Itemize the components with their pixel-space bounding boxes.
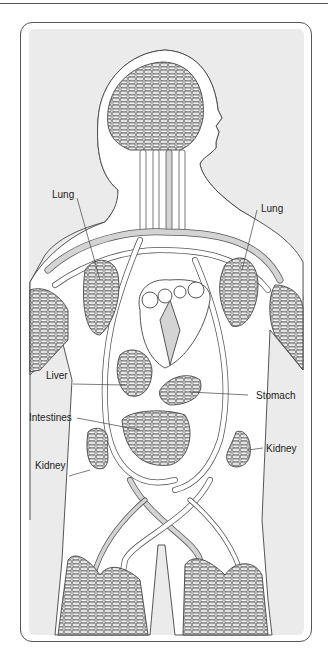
kidney-left <box>87 428 108 468</box>
label-lung-left: Lung <box>52 189 74 200</box>
label-liver: Liver <box>46 370 68 381</box>
label-kidney-right: Kidney <box>266 443 297 454</box>
label-intestines: Intestines <box>29 412 72 423</box>
label-lung-right: Lung <box>261 203 283 214</box>
label-kidney-left: Kidney <box>35 460 66 471</box>
arm-left-capillaries <box>30 289 68 372</box>
liver <box>117 350 152 396</box>
circulatory-diagram <box>0 0 328 657</box>
arm-right-capillaries <box>270 285 303 370</box>
label-stomach: Stomach <box>256 390 295 401</box>
